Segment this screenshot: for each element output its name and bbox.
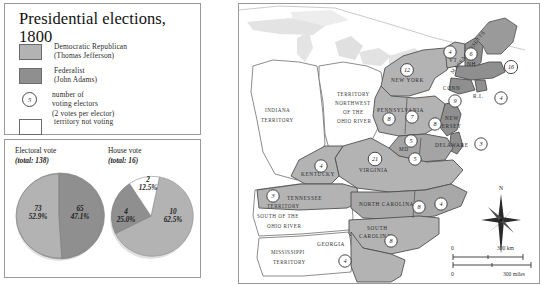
elector-badge-connecticut[interactable]: 9 [449, 95, 461, 107]
elector-badge-georgia[interactable]: 4 [339, 255, 351, 267]
elector-badge-maryland-fed[interactable]: 5 [409, 153, 421, 165]
svg-text:3: 3 [270, 192, 274, 199]
label-new-york: NEW YORK [391, 77, 424, 83]
infographic-root: Presidential elections, 1800 Democratic … [0, 0, 542, 285]
legend-item-democratic-republican: Democratic Republican (Thomas Jefferson) [19, 42, 127, 61]
label-tennessee: TENNESSEE [287, 195, 322, 201]
scale-miles-zero: 0 [451, 271, 454, 277]
svg-text:9: 9 [453, 97, 456, 104]
label-nw-ohio-line1: TERRITORY [337, 91, 370, 97]
house-slice-label-not-voting: 212.5% [133, 167, 163, 193]
label-pennsylvania: PENNSYLVANIA [377, 107, 424, 113]
house-chart-title: House vote [108, 146, 141, 156]
scale-miles-value: 300 miles [503, 271, 525, 277]
svg-text:4: 4 [448, 48, 451, 55]
elector-badge-delaware[interactable]: 3 [475, 138, 487, 150]
compass-rose: N [481, 185, 521, 254]
label-mississippi-line2: TERRITORY [273, 259, 306, 265]
label-mississippi-line1: MISSISSIPPI [271, 249, 305, 255]
label-maryland: MD [399, 146, 409, 152]
elector-badge-south-carolina[interactable]: 8 [385, 235, 397, 247]
house-chart-heading: House vote (total: 16) [108, 146, 141, 165]
left-panel: Presidential elections, 1800 Democratic … [0, 0, 214, 285]
house-chart-subtitle: (total: 16) [108, 156, 141, 166]
label-new-jersey-line2: JERSEY [439, 123, 461, 129]
elector-badge-pennsylvania-fed[interactable]: 7 [406, 111, 418, 123]
legend-label-voting-electors: number of voting electors (2 votes per e… [52, 90, 114, 118]
elector-badge-north-carolina-dr[interactable]: 8 [413, 201, 425, 213]
svg-text:4: 4 [319, 162, 322, 169]
legend-swatch-democratic-republican [19, 44, 42, 60]
house-slice-label-dr: 1062.5% [155, 199, 191, 225]
legend-panel: Presidential elections, 1800 Democratic … [4, 3, 201, 135]
label-nw-ohio-line4: OHIO RIVER [337, 118, 371, 124]
legend-item-voting-electors: 5 number of voting electors (2 votes per… [19, 90, 114, 118]
electoral-chart-subtitle: (total: 138) [15, 156, 56, 166]
svg-text:4: 4 [439, 200, 442, 207]
elector-badge-rhode-island[interactable]: 4 [495, 92, 507, 104]
label-nw-ohio-line2: NORTHWEST [335, 100, 371, 106]
scale-km-zero: 0 [451, 245, 454, 251]
label-south-ohio-line2: SOUTH OF THE [257, 213, 299, 219]
label-delaware: DELAWARE [435, 142, 469, 148]
svg-text:12: 12 [404, 66, 410, 73]
legend-label-democratic-republican: Democratic Republican (Thomas Jefferson) [54, 42, 127, 61]
elector-badge-new-york[interactable]: 12 [401, 64, 414, 77]
svg-text:3: 3 [478, 140, 482, 147]
label-south-ohio-line1: TERRITORY [267, 203, 300, 209]
electoral-slice-label-fed: 6547.1% [63, 196, 97, 222]
legend-elector-marker: 5 [19, 92, 40, 106]
house-slice-label-fed: 425.0% [108, 199, 144, 225]
electoral-pie-chart: 7352.9% 6547.1% [13, 168, 105, 264]
compass-north-label: N [499, 185, 503, 191]
elector-badge-kentucky[interactable]: 4 [315, 160, 327, 172]
label-indiana-territory-line1: INDIANA [265, 107, 290, 113]
legend-label-territory-not-voting: territory not voting [54, 117, 113, 126]
electoral-chart-title: Electoral vote [15, 146, 56, 156]
house-pie-chart: 1062.5% 425.0% 212.5% [105, 168, 197, 264]
elector-badge-new-hampshire[interactable]: 6 [465, 48, 477, 60]
svg-text:5: 5 [413, 155, 416, 162]
label-new-hampshire: NH [467, 61, 476, 67]
legend-swatch-federalist [19, 68, 42, 84]
elector-circle-icon: 5 [22, 92, 37, 107]
svg-text:5: 5 [409, 137, 412, 144]
electoral-chart-heading: Electoral vote (total: 138) [15, 146, 56, 165]
elector-badge-north-carolina-fed[interactable]: 4 [435, 198, 447, 210]
state-massachusetts[interactable] [455, 62, 505, 80]
label-indiana-territory-line2: TERRITORY [261, 117, 294, 123]
svg-text:21: 21 [372, 155, 378, 162]
elector-badge-tennessee[interactable]: 3 [267, 190, 279, 202]
scale-bar: 0 300 km 0 300 miles [451, 245, 531, 277]
label-georgia: GEORGIA [317, 241, 345, 247]
label-south-ohio-line3: OHIO RIVER [267, 223, 301, 229]
elector-badge-new-jersey[interactable]: 8 [429, 118, 441, 130]
label-nw-ohio-line3: OF THE [343, 109, 364, 115]
label-new-jersey-line1: NEW [445, 115, 459, 121]
state-rhode-island[interactable] [475, 80, 487, 92]
label-rhode-island: R.I. [473, 93, 483, 99]
elector-badge-maryland-dr[interactable]: 5 [405, 135, 417, 147]
label-virginia: VIRGINIA [359, 167, 388, 173]
electoral-slice-label-dr: 7352.9% [21, 196, 55, 222]
elector-badge-massachusetts[interactable]: 16 [504, 60, 517, 73]
map-panel: NEW YORK PENNSYLVANIA NEW JERSEY DELAWAR… [238, 3, 540, 284]
legend-label-federalist: Federalist (John Adams) [54, 66, 97, 85]
charts-panel: Electoral vote (total: 138) 7352.9% 6547… [4, 139, 201, 278]
label-south-carolina-line1: SOUTH [367, 225, 388, 231]
elector-badge-pennsylvania-dr[interactable]: 8 [383, 113, 395, 125]
elector-badge-virginia[interactable]: 21 [368, 152, 382, 166]
svg-text:4: 4 [499, 94, 502, 101]
svg-text:16: 16 [508, 63, 515, 70]
legend-item-federalist: Federalist (John Adams) [19, 66, 97, 85]
label-north-carolina: NORTH CAROLINA [359, 201, 414, 207]
scale-km-value: 300 km [497, 245, 515, 251]
legend-item-territory-not-voting: territory not voting [19, 117, 113, 135]
legend-swatch-not-voting [19, 119, 42, 135]
label-connecticut: CONN [443, 85, 460, 91]
svg-text:4: 4 [343, 257, 346, 264]
election-map: NEW YORK PENNSYLVANIA NEW JERSEY DELAWAR… [239, 4, 539, 283]
elector-badge-vermont[interactable]: 4 [444, 46, 456, 58]
